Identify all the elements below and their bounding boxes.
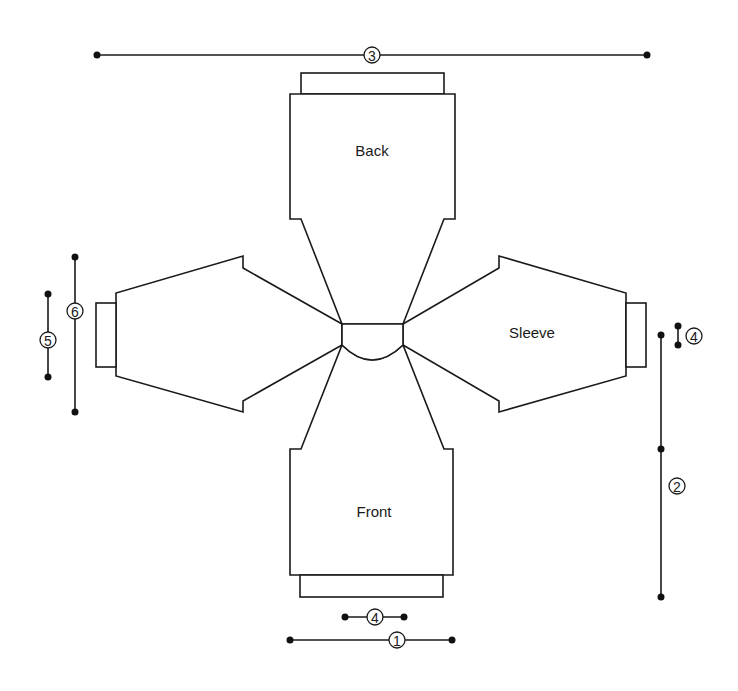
measurement-6-label: 6 (71, 304, 79, 320)
back-piece: Back (290, 73, 455, 324)
front-body (290, 345, 453, 575)
measurement-1: 1 (287, 632, 456, 649)
left-sleeve-cuff (96, 303, 116, 367)
measurement-3-label: 3 (368, 48, 376, 64)
left-sleeve-piece (96, 256, 342, 412)
right-sleeve-cuff (626, 303, 646, 367)
front-label: Front (356, 503, 392, 520)
measurement-5-label: 5 (44, 333, 52, 349)
measurement-4-right: 4 (675, 323, 703, 349)
back-body (290, 94, 455, 324)
measurement-5: 5 (40, 291, 56, 381)
front-hem-rib (300, 575, 443, 597)
sweater-schematic-diagram: Back Sleeve Front 3 6 (0, 0, 738, 691)
left-sleeve-body (116, 256, 342, 412)
front-piece: Front (290, 345, 453, 597)
right-sleeve-piece: Sleeve (403, 256, 646, 412)
measurement-4-bottom-label: 4 (371, 610, 379, 626)
measurement-3: 3 (94, 47, 651, 64)
measurement-4-right-label: 4 (690, 329, 698, 345)
back-neck-rib (301, 73, 444, 94)
measurement-2: 2 (658, 332, 686, 601)
measurement-2-label: 2 (673, 479, 681, 495)
sleeve-label: Sleeve (509, 324, 555, 341)
measurement-4-bottom: 4 (342, 609, 408, 626)
measurement-6: 6 (67, 254, 83, 416)
back-label: Back (355, 142, 389, 159)
measurement-1-label: 1 (393, 633, 401, 649)
